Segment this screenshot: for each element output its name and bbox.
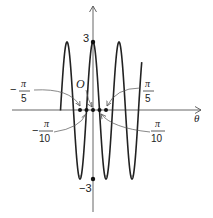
label-neg-pi-over-5: − π 5 — [10, 78, 30, 104]
svg-text:π: π — [21, 78, 27, 89]
pointer-pi-5 — [107, 88, 140, 106]
theta-label: θ — [194, 112, 200, 124]
label-neg-pi-over-10: − π 10 — [32, 118, 53, 144]
svg-text:π: π — [155, 118, 161, 129]
svg-text:10: 10 — [151, 133, 163, 144]
label-pi-over-5: π 5 — [143, 78, 154, 104]
svg-text:π: π — [145, 78, 151, 89]
svg-text:π: π — [44, 118, 50, 129]
svg-text:10: 10 — [39, 133, 51, 144]
svg-text:−: − — [10, 83, 16, 95]
y-label-neg3: −3 — [79, 182, 92, 194]
y-label-3: 3 — [83, 32, 89, 44]
svg-text:5: 5 — [145, 93, 151, 104]
chart-canvas: 3 −3 O θ − π 5 π 5 − π 10 π 10 — [0, 0, 213, 218]
pointer-neg-pi-10 — [54, 114, 86, 132]
label-pi-over-10: π 10 — [151, 118, 165, 144]
origin-label: O — [76, 77, 85, 91]
svg-text:5: 5 — [21, 93, 27, 104]
svg-text:−: − — [32, 124, 38, 136]
